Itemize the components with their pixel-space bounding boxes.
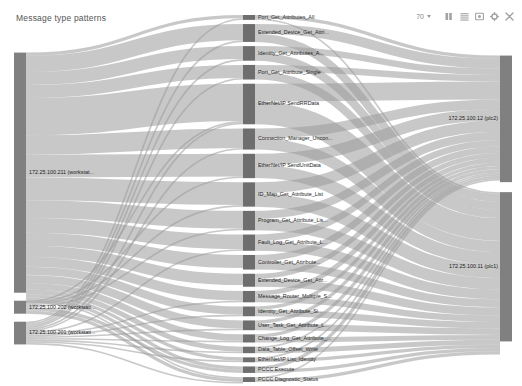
sankey-node-label: 172.25.100.11 (plc1) [449,263,498,269]
sankey-node[interactable] [14,301,26,314]
sankey-node-label: PCCC Diagnostic_Status [258,376,319,382]
sankey-node-label: 172.25.100.12 (plc2) [449,115,499,121]
sankey-node-label: Identity_Get_Attributes_A... [258,50,324,56]
sankey-node-label: Controller_Get_Attribute... [258,259,321,265]
sankey-node-label: Port_Get_Attribute_Single [258,69,321,75]
sankey-node[interactable] [243,182,255,206]
sankey-node-label: Fault_Log_Get_Attribute_L... [258,239,327,245]
sankey-node-label: Extended_Device_Get_Attr... [258,277,328,283]
sankey-node-label: Extended_Device_Get_Attri... [258,29,329,35]
sankey-node[interactable] [243,274,255,287]
sankey-node[interactable] [243,320,255,330]
sankey-node[interactable] [243,357,255,362]
sankey-node-label: Change_Log_Get_Attribute_... [258,335,331,341]
sankey-node[interactable] [243,291,255,302]
sankey-node-label: Connection_Manager_Uncon... [258,135,333,141]
sankey-diagram: 172.25.100.211 (workstat...172.25.100.20… [0,0,522,386]
sankey-node-label: 172.25.100.202 (workstati... [29,304,96,310]
sankey-link[interactable] [26,102,243,116]
sankey-node[interactable] [243,307,255,317]
sankey-node-label: Port_Get_Attributes_All [258,14,314,20]
sankey-link[interactable] [255,90,500,92]
sankey-node-label: 172.25.100.211 (workstat... [29,169,94,175]
sankey-node[interactable] [243,154,255,178]
sankey-node[interactable] [243,65,255,80]
sankey-node[interactable] [14,322,26,345]
sankey-node[interactable] [243,46,255,61]
sankey-node-label: EtherNet/IP List_Identity [258,356,316,362]
sankey-node[interactable] [243,15,255,20]
sankey-node[interactable] [243,347,255,353]
sankey-node-label: 172.25.100.201 (workstati... [29,329,96,335]
message-type-patterns-panel: Message type patterns 70 [0,0,522,386]
sankey-node[interactable] [243,211,255,230]
sankey-link[interactable] [26,165,243,166]
sankey-node-label: EtherNet/IP SendUnitData [258,162,321,168]
sankey-node[interactable] [243,128,255,149]
sankey-node[interactable] [243,235,255,251]
sankey-node[interactable] [243,84,255,125]
sankey-node[interactable] [243,255,255,270]
sankey-node[interactable] [14,53,26,293]
sankey-node-label: PCCC Execute [258,366,294,372]
sankey-node-label: EtherNet/IP SendRRData [258,100,319,106]
sankey-node-label: Program_Get_Attribute_Lis... [258,217,328,223]
sankey-node[interactable] [243,24,255,42]
sankey-node[interactable] [243,377,255,382]
sankey-node-label: Message_Router_Multiple_S... [258,293,332,299]
sankey-link[interactable] [26,138,243,145]
sankey-node-label: ID_Map_Get_Attribute_List [258,191,324,197]
sankey-node-label: Identity_Get_Attribute_Si... [258,308,322,314]
sankey-node[interactable] [243,334,255,342]
sankey-node[interactable] [500,192,512,341]
sankey-node[interactable] [243,366,255,372]
sankey-node-label: User_Task_Get_Attribute_L... [258,322,329,328]
sankey-node[interactable] [500,56,512,183]
sankey-node-label: Data_Table_Offset_Write [258,346,318,352]
